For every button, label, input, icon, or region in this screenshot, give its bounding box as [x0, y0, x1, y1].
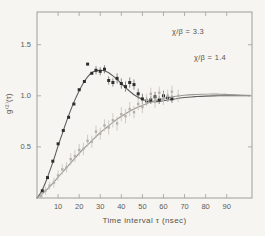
svg-text:1.5: 1.5	[21, 40, 31, 49]
svg-text:30: 30	[96, 202, 104, 211]
svg-text:60: 60	[159, 202, 167, 211]
svg-text:40: 40	[117, 202, 125, 211]
y-axis-label: g⁽²⁾(τ)	[4, 72, 13, 136]
svg-text:10: 10	[54, 202, 62, 211]
annotation-chi-beta-1-4: χ/β = 1.4	[178, 53, 242, 62]
svg-text:0.5: 0.5	[21, 142, 31, 151]
svg-text:70: 70	[180, 202, 188, 211]
svg-text:90: 90	[223, 202, 231, 211]
chart-canvas: 1020304050607080900.51.01.5	[0, 0, 265, 236]
svg-text:50: 50	[138, 202, 146, 211]
svg-text:20: 20	[75, 202, 83, 211]
svg-text:80: 80	[201, 202, 209, 211]
correlation-figure: 1020304050607080900.51.01.5 g⁽²⁾(τ) Time…	[0, 0, 265, 236]
svg-text:1.0: 1.0	[21, 91, 31, 100]
annotation-chi-beta-3-3: χ/β = 3.3	[156, 27, 220, 36]
x-axis-label: Time interval τ (nsec)	[37, 216, 252, 225]
